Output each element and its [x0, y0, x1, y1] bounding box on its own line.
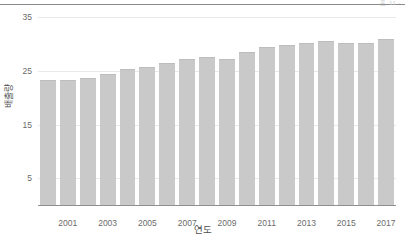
bar	[80, 78, 96, 205]
plot-area: 5152535 20012003200520072009201120132015…	[38, 12, 398, 206]
y-axis-tick-label: 35	[8, 12, 32, 22]
bar	[279, 45, 295, 205]
bar	[100, 74, 116, 205]
bar	[299, 43, 315, 205]
header-fragment-text: 표 11 -	[380, 0, 401, 7]
bar	[139, 67, 155, 205]
y-axis-tick-label: 5	[8, 173, 32, 183]
bar	[378, 39, 394, 205]
bar-series	[38, 12, 396, 205]
y-axis-title: 배출량	[2, 84, 15, 108]
bar	[40, 80, 56, 205]
x-axis-title: 연도	[0, 222, 405, 236]
chart-page: 표 11 - 5152535 2001200320052007200920112…	[0, 0, 405, 244]
y-axis-tick-label: 25	[8, 66, 32, 76]
bar	[338, 43, 354, 205]
top-divider-rule	[0, 4, 405, 5]
bar	[239, 52, 255, 205]
x-axis-line	[38, 205, 396, 206]
y-axis-tick-label: 15	[8, 120, 32, 130]
bar	[358, 43, 374, 205]
bar	[179, 59, 195, 205]
bar	[159, 63, 175, 205]
bar	[259, 47, 275, 205]
bar	[60, 80, 76, 205]
bar	[199, 57, 215, 205]
bar	[219, 59, 235, 205]
bar	[318, 41, 334, 205]
bar	[120, 69, 136, 205]
